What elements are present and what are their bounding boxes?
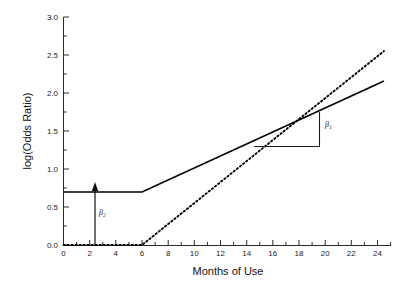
x-tick-label: 18	[295, 249, 304, 258]
beta2-label: β₂	[98, 208, 106, 217]
y-tick-label: 1.0	[47, 165, 59, 174]
beta1-annotation: β₁	[254, 112, 332, 147]
x-tick-label: 6	[140, 249, 145, 258]
y-tick-label: 2.0	[47, 89, 59, 98]
y-tick-label: 0.0	[47, 241, 59, 250]
y-tick-label: 2.5	[47, 51, 59, 60]
beta1-label: β₁	[324, 120, 332, 129]
x-tick-label: 20	[321, 249, 330, 258]
beta2-arrow-head-icon	[92, 182, 98, 191]
x-tick-label: 8	[166, 249, 171, 258]
series-solid-spline	[64, 81, 385, 192]
x-axis: 0 2 4 6 8 10 12 14 16 18 20 22 24	[61, 240, 391, 258]
y-axis-title: log(Odds Ratio)	[21, 92, 33, 169]
x-tick-label: 24	[373, 249, 382, 258]
y-tick-label: 3.0	[47, 13, 59, 22]
y-tick-label: 0.5	[47, 203, 59, 212]
x-tick-label: 4	[114, 249, 119, 258]
plot-canvas: 3.0 2.5 2.0 1.5 1.0 0.5 0.0	[0, 0, 418, 283]
y-major-ticks	[64, 17, 70, 245]
y-tick-label: 1.5	[47, 127, 59, 136]
chart-figure: 3.0 2.5 2.0 1.5 1.0 0.5 0.0	[0, 0, 418, 283]
x-tick-label: 22	[347, 249, 356, 258]
x-tick-label: 10	[190, 249, 199, 258]
x-tick-label: 16	[268, 249, 277, 258]
y-axis: 3.0 2.5 2.0 1.5 1.0 0.5 0.0	[47, 13, 69, 250]
x-tick-label: 12	[216, 249, 225, 258]
x-tick-label: 14	[242, 249, 251, 258]
x-major-ticks	[64, 240, 378, 246]
series-dotted-spline	[64, 51, 385, 245]
x-tick-label: 2	[87, 249, 92, 258]
x-tick-label: 0	[61, 249, 66, 258]
x-axis-title: Months of Use	[193, 265, 264, 277]
